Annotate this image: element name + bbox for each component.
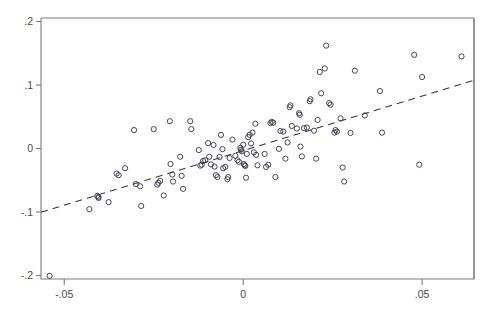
figure-background: [0, 0, 491, 317]
x-tick-label: 0: [240, 288, 246, 300]
y-tick-label: .2: [24, 15, 33, 27]
x-tick-label: .05: [415, 288, 430, 300]
x-tick-label: -.05: [55, 288, 73, 300]
y-tick-label: -.1: [21, 206, 33, 218]
y-tick-label: .1: [24, 79, 33, 91]
y-tick-label: -.2: [21, 269, 33, 281]
scatter-plot-figure: .2.10-.1-.2 -.050.05: [0, 0, 491, 317]
plot-canvas: .2.10-.1-.2 -.050.05: [0, 0, 491, 317]
y-tick-label: 0: [27, 142, 33, 154]
